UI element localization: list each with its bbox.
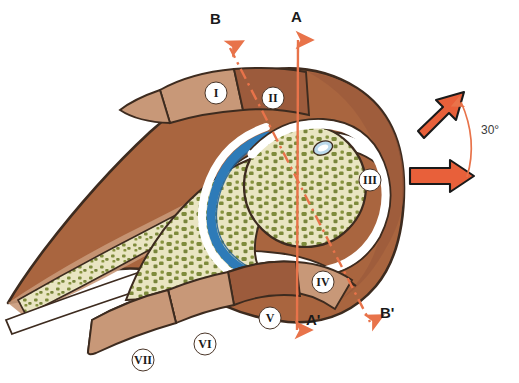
region-marker-V[interactable]: V	[259, 307, 281, 329]
region-marker-VII[interactable]: VII	[132, 349, 154, 371]
anatomy-diagram: 30° A A' B B' I II III	[0, 0, 519, 383]
region-label-IV: IV	[316, 275, 330, 289]
axis-A-label-end: A'	[306, 311, 320, 328]
region-marker-I[interactable]: I	[205, 82, 227, 104]
region-marker-III[interactable]: III	[359, 169, 381, 191]
region-marker-IV[interactable]: IV	[312, 271, 334, 293]
region-label-III: III	[363, 173, 377, 187]
axis-A-label-start: A	[291, 8, 302, 25]
region-marker-II[interactable]: II	[262, 87, 284, 109]
region-label-I: I	[214, 86, 219, 100]
region-label-VI: VI	[198, 337, 212, 351]
region-label-VII: VII	[134, 353, 152, 367]
lower-block-arrow	[410, 160, 474, 192]
angle-arc	[461, 102, 471, 177]
angle-arc-group: 30°	[461, 102, 499, 177]
region-label-II: II	[268, 91, 278, 105]
region-label-V: V	[266, 311, 275, 325]
axis-A-line	[297, 40, 298, 330]
upper-block-arrow	[418, 92, 464, 138]
axis-B-label-end: B'	[380, 304, 394, 321]
direction-arrows	[410, 92, 474, 192]
axis-B-label-start: B	[210, 10, 221, 27]
region-marker-VI[interactable]: VI	[194, 333, 216, 355]
angle-label: 30°	[481, 123, 499, 137]
figure-root: 30° A A' B B' I II III	[0, 0, 519, 383]
